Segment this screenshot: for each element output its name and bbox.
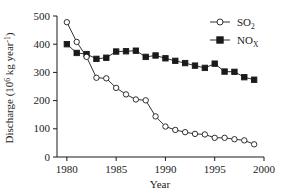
data-point (212, 135, 217, 140)
series-line (67, 22, 254, 144)
data-point (104, 55, 109, 60)
data-point (192, 63, 197, 68)
data-point (251, 77, 256, 82)
data-point (163, 124, 168, 129)
data-point (113, 85, 118, 90)
data-point (242, 138, 247, 143)
axes (57, 16, 264, 157)
x-tick-label: 1995 (204, 163, 227, 175)
data-point (163, 56, 168, 61)
x-axis-label: Year (150, 178, 171, 190)
y-tick-label: 200 (34, 94, 51, 106)
x-tick-label: 1985 (105, 163, 128, 175)
data-point (94, 75, 99, 80)
x-tick-label: 2000 (253, 163, 276, 175)
data-point (74, 39, 79, 44)
y-tick-label: 500 (34, 10, 51, 22)
data-point (143, 98, 148, 103)
legend-item-nox: NOX (210, 34, 259, 49)
x-tick-label: 1980 (56, 163, 79, 175)
data-point (192, 131, 197, 136)
data-point (84, 54, 89, 59)
data-point (232, 137, 237, 142)
data-point (242, 74, 247, 79)
data-point (202, 65, 207, 70)
data-point (153, 53, 158, 58)
data-point (133, 97, 138, 102)
data-point (202, 132, 207, 137)
data-point (74, 50, 79, 55)
series-so2 (64, 20, 257, 148)
data-point (222, 135, 227, 140)
data-point (232, 69, 237, 74)
legend-marker-filled-square (217, 37, 223, 43)
chart-legend: SO2 NOX (210, 16, 259, 49)
legend-label-nox: NOX (237, 34, 259, 49)
data-point (153, 114, 158, 119)
data-point (222, 69, 227, 74)
data-point (123, 92, 128, 97)
y-axis-label-close: ) (3, 32, 16, 36)
y-tick-label: 300 (34, 66, 51, 78)
data-point (212, 61, 217, 66)
legend-item-so2: SO2 (210, 16, 255, 31)
x-tick-label: 1990 (154, 163, 177, 175)
discharge-line-chart: 0100200300400500 19801985199019952000 Ye… (0, 0, 283, 193)
y-tick-label: 100 (34, 122, 51, 134)
data-point (94, 56, 99, 61)
svg-text:Discharge (106 kg year-1): Discharge (106 kg year-1) (3, 32, 17, 143)
y-axis-label: Discharge (106 kg year-1) (3, 32, 17, 143)
data-point (173, 58, 178, 63)
data-point (182, 60, 187, 65)
data-point (113, 49, 118, 54)
legend-marker-open-circle (217, 19, 223, 25)
data-point (173, 127, 178, 132)
data-point (143, 54, 148, 59)
data-point (64, 42, 69, 47)
x-axis-ticks: 19801985199019952000 (56, 157, 276, 175)
data-point (251, 142, 256, 147)
data-point (104, 76, 109, 81)
series-nox (64, 42, 257, 83)
data-point (123, 49, 128, 54)
data-point (64, 20, 69, 25)
y-axis-label-mid: kg year (3, 42, 15, 78)
chart-figure: 0100200300400500 19801985199019952000 Ye… (0, 0, 283, 193)
y-axis-label-main: Discharge (10 (3, 81, 16, 143)
legend-label-so2: SO2 (237, 16, 255, 31)
y-axis-ticks: 0100200300400500 (34, 10, 58, 163)
data-point (133, 48, 138, 53)
y-tick-label: 400 (34, 38, 51, 50)
data-point (182, 129, 187, 134)
y-tick-label: 0 (45, 151, 51, 163)
